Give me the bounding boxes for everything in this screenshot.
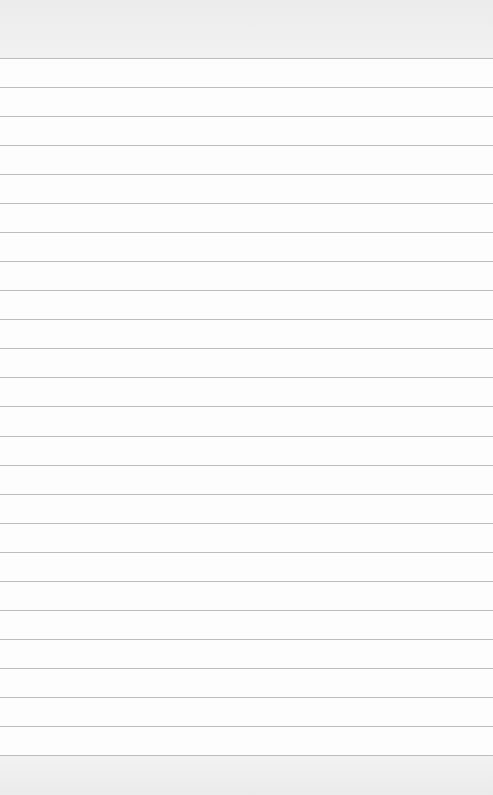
top-margin-band <box>0 0 493 58</box>
ruled-line <box>0 406 493 407</box>
ruled-line <box>0 639 493 640</box>
ruled-line <box>0 145 493 146</box>
ruled-line <box>0 697 493 698</box>
ruled-line <box>0 581 493 582</box>
ruled-line <box>0 494 493 495</box>
lined-paper-sheet <box>0 58 493 756</box>
ruled-line <box>0 668 493 669</box>
ruled-line <box>0 465 493 466</box>
ruled-line <box>0 436 493 437</box>
ruled-line <box>0 552 493 553</box>
ruled-line <box>0 58 493 59</box>
ruled-line <box>0 523 493 524</box>
ruled-line <box>0 377 493 378</box>
ruled-line <box>0 261 493 262</box>
ruled-line <box>0 610 493 611</box>
ruled-line <box>0 232 493 233</box>
bottom-margin-band <box>0 756 493 795</box>
ruled-line <box>0 726 493 727</box>
ruled-line <box>0 174 493 175</box>
ruled-line <box>0 87 493 88</box>
ruled-line <box>0 203 493 204</box>
ruled-line <box>0 116 493 117</box>
ruled-line <box>0 348 493 349</box>
ruled-line <box>0 319 493 320</box>
ruled-line <box>0 290 493 291</box>
